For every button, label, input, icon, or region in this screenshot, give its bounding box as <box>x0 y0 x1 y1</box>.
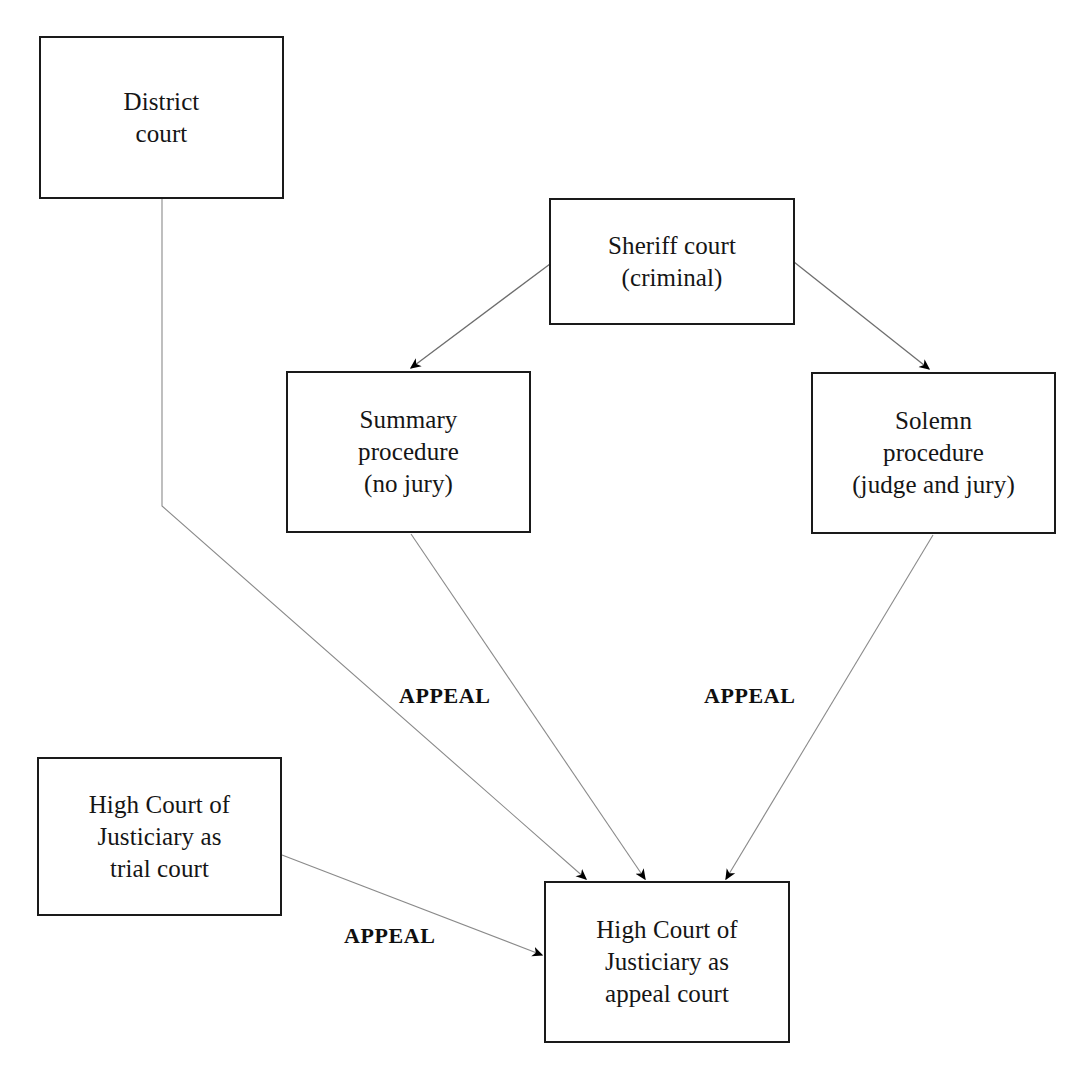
edge-label-summary-appeal: APPEAL <box>399 683 491 709</box>
node-high-court-appeal-label: High Court of Justiciary as appeal court <box>596 914 738 1010</box>
node-high-court-of-justiciary-trial-court[interactable]: High Court of Justiciary as trial court <box>37 757 282 916</box>
node-sheriff-court[interactable]: Sheriff court (criminal) <box>549 198 795 325</box>
node-district-court[interactable]: District court <box>39 36 284 199</box>
node-district-court-label: District court <box>124 86 200 150</box>
edge-sheriff-to-solemn <box>794 262 929 369</box>
court-hierarchy-diagram: District court Sheriff court (criminal) … <box>0 0 1092 1083</box>
node-high-court-of-justiciary-appeal-court[interactable]: High Court of Justiciary as appeal court <box>544 881 790 1043</box>
edge-sheriff-to-summary <box>411 264 550 368</box>
node-sheriff-court-label: Sheriff court (criminal) <box>608 230 736 294</box>
edge-label-trial-appeal: APPEAL <box>344 923 436 949</box>
node-solemn-procedure[interactable]: Solemn procedure (judge and jury) <box>811 372 1056 534</box>
node-solemn-procedure-label: Solemn procedure (judge and jury) <box>852 405 1015 501</box>
node-summary-procedure[interactable]: Summary procedure (no jury) <box>286 371 531 533</box>
node-summary-procedure-label: Summary procedure (no jury) <box>358 404 459 500</box>
edge-label-solemn-appeal: APPEAL <box>704 683 796 709</box>
node-high-court-trial-label: High Court of Justiciary as trial court <box>89 789 231 885</box>
